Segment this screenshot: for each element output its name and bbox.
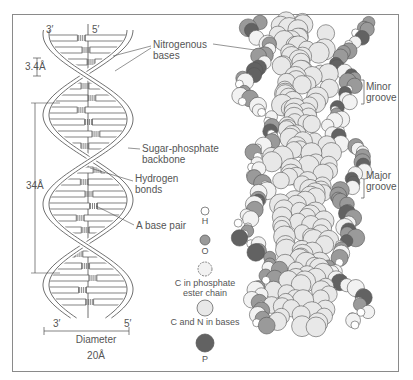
strand-end-label-bottom-right: 5′ <box>124 318 131 329</box>
helix-turn-label: 34Å <box>26 180 44 191</box>
callout-base-pair: A base pair <box>136 220 186 231</box>
atom-sphere-o <box>258 317 275 334</box>
atom-sphere-base <box>308 42 329 63</box>
callout-nitrogenous-bases: Nitrogenous bases <box>153 39 207 61</box>
atom-sphere-base <box>306 317 326 337</box>
strand-end-label-bottom-left: 3′ <box>53 318 60 329</box>
atom-sphere-p <box>247 244 265 262</box>
callout-major-groove: Major groove <box>366 170 397 192</box>
legend-label-c-phosphate: C in phosphate ester chain <box>165 278 245 298</box>
diameter-value: 20Å <box>66 350 126 361</box>
callout-sugar-phosphate-backbone: Sugar-phosphate backbone <box>142 143 219 165</box>
atom-sphere-p <box>231 230 247 246</box>
callout-hydrogen-bonds: Hydrogen bonds <box>135 173 178 195</box>
diameter-label: Diameter <box>66 334 126 345</box>
legend-label-h: H <box>190 216 220 226</box>
atom-sphere-base <box>303 115 320 132</box>
strand-end-label-top-right: 5′ <box>92 24 99 35</box>
legend-label-p: P <box>190 354 220 364</box>
strand-end-label-top-left: 3′ <box>46 24 53 35</box>
atom-sphere-h <box>351 321 359 329</box>
callout-minor-groove: Minor groove <box>366 81 397 103</box>
atom-sphere-h <box>234 219 242 227</box>
base-spacing-label: 3.4Å <box>25 61 46 72</box>
legend-label-o: O <box>190 246 220 256</box>
atom-sphere-h <box>238 98 246 106</box>
legend-label-c-n-bases: C and N in bases <box>160 317 250 327</box>
atom-sphere-h <box>258 108 266 116</box>
